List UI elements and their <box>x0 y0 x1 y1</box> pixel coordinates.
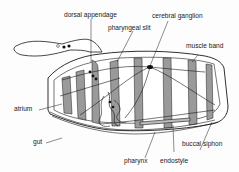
label-endostyle: endostyle <box>160 158 188 165</box>
label-buccal-siphon: buccal siphon <box>182 141 222 148</box>
salp-diagram: dorsal appendage pharyngeal slit cerebra… <box>0 0 239 172</box>
label-pharynx: pharynx <box>124 158 147 165</box>
label-pharyngeal-slit: pharyngeal slit <box>108 25 151 32</box>
label-atrium: atrium <box>14 106 32 113</box>
label-cerebral-ganglion: cerebral ganglion <box>152 13 203 20</box>
label-muscle-band: muscle band <box>186 43 223 50</box>
label-gut: gut <box>33 139 42 146</box>
label-dorsal-appendage: dorsal appendage <box>64 12 117 19</box>
